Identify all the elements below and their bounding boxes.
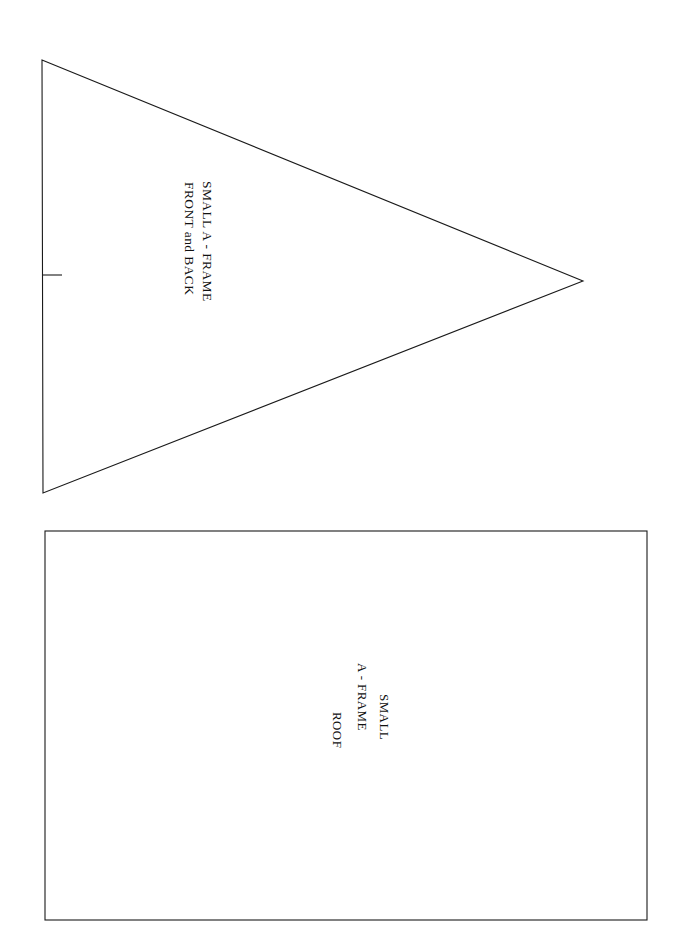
- pattern-drawing: [0, 0, 682, 949]
- a-frame-roof-outline: [45, 531, 647, 920]
- pattern-sheet: SMALL A - FRAME FRONT and BACK SMALL A -…: [0, 0, 682, 949]
- a-frame-front-back-outline: [42, 60, 583, 493]
